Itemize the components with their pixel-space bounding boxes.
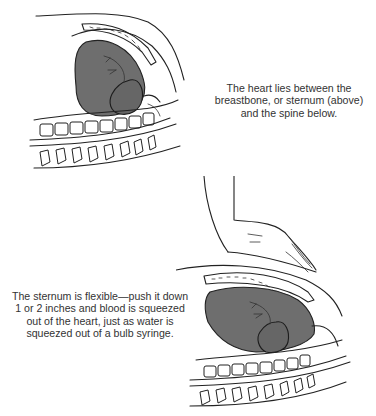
bottom-caption-line-2: 1 or 2 inches and blood is squeezed bbox=[6, 302, 194, 314]
chest-diagram-top bbox=[0, 0, 210, 180]
bottom-caption: The sternum is flexible—push it down 1 o… bbox=[6, 290, 194, 340]
top-caption-line-3: and the spine below. bbox=[214, 107, 364, 119]
bottom-caption-line-1: The sternum is flexible—push it down bbox=[6, 290, 194, 302]
chest-compression-diagram bbox=[176, 176, 376, 416]
bottom-chest-illustration bbox=[176, 176, 376, 416]
top-caption-line-2: breastbone, or sternum (above) bbox=[214, 94, 364, 106]
top-caption-line-1: The heart lies between the bbox=[214, 82, 364, 94]
bottom-caption-line-4: squeezed out of a bulb syringe. bbox=[6, 327, 194, 339]
rib-ends-row bbox=[40, 135, 156, 166]
bottom-caption-line-3: out of the heart, just as water is bbox=[6, 315, 194, 327]
top-chest-illustration bbox=[0, 0, 210, 180]
vertebrae-row bbox=[204, 355, 310, 377]
hand-drawing bbox=[204, 176, 316, 272]
top-caption: The heart lies between the breastbone, o… bbox=[214, 82, 364, 119]
